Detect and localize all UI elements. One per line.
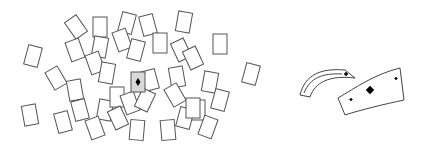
highlighted-card [131,72,145,92]
card [54,111,73,134]
card-illustration [0,0,425,154]
card [65,38,85,62]
card [98,62,115,84]
card [93,17,107,37]
card [153,33,167,53]
bent-card [300,68,404,115]
card [175,11,192,33]
card [21,104,38,126]
card [71,99,90,122]
card [160,119,176,140]
card [213,34,227,54]
card [45,66,67,90]
card [242,63,261,86]
card [24,45,43,68]
card [66,79,83,101]
card [186,98,200,118]
card [129,119,145,140]
card [65,15,88,39]
